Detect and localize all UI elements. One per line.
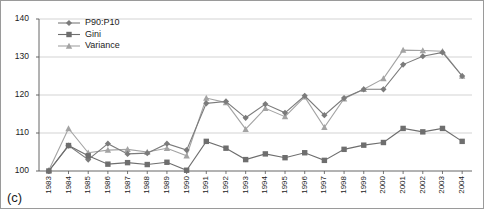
x-axis-tick-label: 2001 (398, 176, 407, 194)
data-series (46, 47, 466, 174)
x-axis-tick-label: 1983 (44, 176, 53, 194)
x-axis-tick-label: 1988 (142, 176, 151, 194)
panel-label: (c) (7, 190, 22, 205)
chart-figure: 100110120130140 198319841985198619871988… (0, 0, 484, 209)
y-axis-tick-label: 130 (5, 51, 29, 61)
legend-label-diamond: P90:P10 (85, 17, 120, 27)
x-axis-tick-label: 1995 (280, 176, 289, 194)
x-axis-tick-label: 1993 (241, 176, 250, 194)
x-axis-tick-label: 1984 (64, 176, 73, 194)
y-axis-tick-label: 100 (5, 165, 29, 175)
x-axis-tick-label: 1997 (319, 176, 328, 194)
x-axis-tick-label: 1986 (103, 176, 112, 194)
x-axis-tick-label: 1999 (359, 176, 368, 194)
legend-markers (58, 20, 80, 49)
x-axis-tick-label: 2004 (457, 176, 466, 194)
legend-label-triangle: Variance (85, 40, 120, 50)
x-axis-tick-label: 1996 (300, 176, 309, 194)
x-axis-tick-label: 2000 (378, 176, 387, 194)
legend-label-square: Gini (85, 29, 101, 39)
x-axis-tick-label: 1998 (339, 176, 348, 194)
x-axis-tick-label: 1992 (221, 176, 230, 194)
x-axis-tick-label: 1985 (83, 176, 92, 194)
y-axis-tick-label: 140 (5, 13, 29, 23)
gridlines (39, 19, 472, 133)
x-axis-tick-label: 2002 (418, 176, 427, 194)
x-axis-tick-label: 1990 (182, 176, 191, 194)
x-axis-tick-label: 1994 (260, 176, 269, 194)
x-axis-tick-label: 2003 (437, 176, 446, 194)
x-axis-tick-label: 1991 (201, 176, 210, 194)
x-axis-tick-label: 1989 (162, 176, 171, 194)
y-axis-tick-label: 110 (5, 127, 29, 137)
x-axis-tick-label: 1987 (123, 176, 132, 194)
y-axis-tick-label: 120 (5, 89, 29, 99)
